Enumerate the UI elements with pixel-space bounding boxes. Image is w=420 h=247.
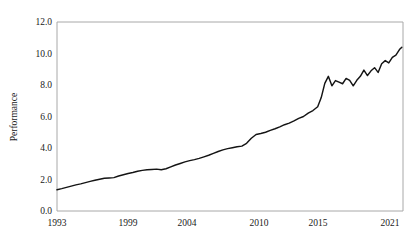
y-tick-label: 0.0 — [40, 206, 52, 216]
y-tick-label: 4.0 — [40, 143, 52, 153]
y-tick-label: 2.0 — [40, 175, 52, 185]
y-tick-label: 6.0 — [40, 112, 52, 122]
x-tick-label: 1993 — [48, 218, 67, 228]
x-tick-label: 2021 — [381, 218, 400, 228]
y-tick-label: 8.0 — [40, 80, 52, 90]
y-axis-title: Performance — [9, 93, 19, 142]
y-tick-label: 12.0 — [35, 17, 52, 27]
chart-figure: 12.0 10.0 8.0 6.0 4.0 2.0 0.0 1993 1999 … — [0, 0, 420, 247]
performance-line-chart: 12.0 10.0 8.0 6.0 4.0 2.0 0.0 1993 1999 … — [0, 0, 420, 247]
x-tick-label: 1999 — [119, 218, 138, 228]
y-tick-label: 10.0 — [35, 49, 52, 59]
x-tick-label: 2010 — [250, 218, 269, 228]
x-tick-label: 2015 — [309, 218, 328, 228]
chart-background — [0, 0, 420, 247]
x-tick-label: 2004 — [178, 218, 197, 228]
